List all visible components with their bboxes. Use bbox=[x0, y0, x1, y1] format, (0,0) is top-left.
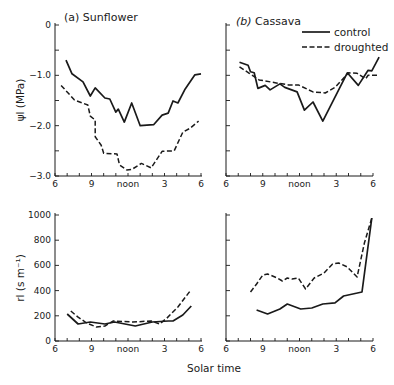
x-tick-label: 6 bbox=[223, 179, 229, 189]
legend-label-droughted: droughted bbox=[334, 41, 388, 53]
series-line-droughted bbox=[240, 67, 378, 93]
panel-sunflower-leaf-resistance: 0200400600800100069noon36 bbox=[28, 210, 204, 354]
x-tick-label: 6 bbox=[52, 179, 58, 189]
x-tick-label: 3 bbox=[333, 344, 339, 354]
series-line-control bbox=[66, 60, 201, 126]
y-tick-label: 0 bbox=[45, 20, 51, 30]
y-tick-label: 800 bbox=[34, 235, 51, 245]
y-tick-label: −2.0 bbox=[29, 121, 51, 131]
figure: 0−1.0−2.0−3.069noon36 69noon36 020040060… bbox=[0, 0, 394, 385]
chart-canvas: 0−1.0−2.0−3.069noon36 69noon36 020040060… bbox=[0, 0, 394, 385]
y-tick-label: 1000 bbox=[28, 210, 51, 220]
x-tick-label: noon bbox=[288, 179, 310, 189]
y-axis-title-leaf-resistance: rl (s m⁻¹) bbox=[14, 254, 26, 302]
x-tick-label: 6 bbox=[370, 344, 376, 354]
x-tick-label: noon bbox=[117, 179, 139, 189]
y-tick-label: −3.0 bbox=[29, 171, 51, 181]
y-tick-label: −1.0 bbox=[29, 70, 51, 80]
x-tick-label: 6 bbox=[223, 344, 229, 354]
x-tick-label: 6 bbox=[370, 179, 376, 189]
panel-sunflower-leaf-water-potential: 0−1.0−2.0−3.069noon36 bbox=[29, 20, 204, 189]
x-tick-label: noon bbox=[288, 344, 310, 354]
panel-title-a: (a) Sunflower bbox=[64, 11, 138, 24]
series-line-control bbox=[257, 218, 372, 314]
x-tick-label: 3 bbox=[333, 179, 339, 189]
series-line-control bbox=[240, 57, 380, 121]
x-tick-label: 9 bbox=[89, 179, 95, 189]
y-tick-label: 400 bbox=[34, 286, 51, 296]
series-line-droughted bbox=[251, 218, 372, 292]
x-tick-label: 6 bbox=[198, 344, 204, 354]
x-tick-label: 3 bbox=[162, 179, 168, 189]
panel-cassava-leaf-resistance: 69noon36 bbox=[223, 213, 376, 354]
y-tick-label: 600 bbox=[34, 260, 51, 270]
x-axis-title: Solar time bbox=[187, 362, 241, 374]
x-tick-label: 9 bbox=[89, 344, 95, 354]
legend-label-control: control bbox=[334, 26, 370, 38]
x-tick-label: 6 bbox=[198, 179, 204, 189]
panel-title-b: (b) Cassava bbox=[236, 15, 301, 28]
y-axis-title-water-potential: ψl (MPa) bbox=[14, 79, 26, 122]
y-tick-label: 200 bbox=[34, 311, 51, 321]
x-tick-label: 6 bbox=[52, 344, 58, 354]
x-tick-label: noon bbox=[117, 344, 139, 354]
y-tick-label: 0 bbox=[45, 336, 51, 346]
series-line-droughted bbox=[61, 85, 199, 170]
legend: control droughted bbox=[302, 26, 388, 53]
x-tick-label: 3 bbox=[162, 344, 168, 354]
x-tick-label: 9 bbox=[260, 179, 266, 189]
x-tick-label: 9 bbox=[260, 344, 266, 354]
